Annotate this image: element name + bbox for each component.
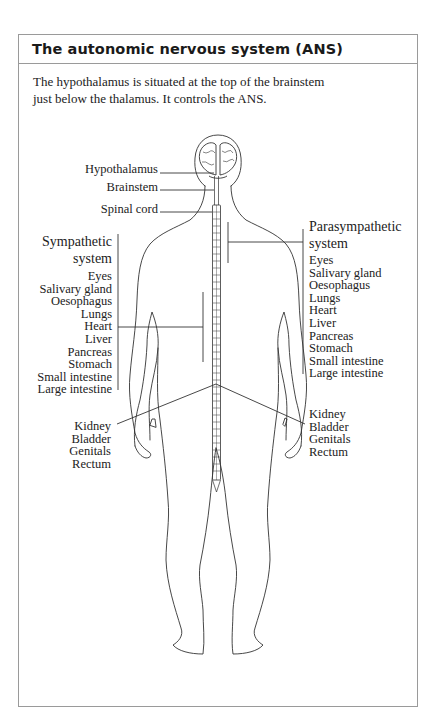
- sympathetic-lower-organ: Genitals: [69, 445, 111, 458]
- right-inner-arm: [278, 312, 302, 446]
- parasympathetic-lower-organ: Kidney: [309, 408, 351, 421]
- sympathetic-lower-organ: Kidney: [69, 420, 111, 433]
- sympathetic-title: Sympathetic system: [42, 233, 112, 267]
- label-brainstem: Brainstem: [107, 181, 158, 194]
- parasympathetic-title: Parasympathetic system: [309, 218, 402, 252]
- parasympathetic-title-line-2: system: [309, 235, 402, 252]
- parasympathetic-organ: Liver: [309, 317, 384, 330]
- sympathetic-organ: Oesophagus: [37, 295, 112, 308]
- left-inner-arm: [134, 312, 158, 446]
- spinal-column: [213, 176, 221, 492]
- lower-right-leader: [216, 384, 305, 424]
- sympathetic-organ: Stomach: [37, 358, 112, 371]
- parasympathetic-lower-organ: Rectum: [309, 446, 351, 459]
- left-torso-leg: [158, 348, 217, 654]
- parasympathetic-organ: Large intestine: [309, 367, 384, 380]
- parasympathetic-title-line-1: Parasympathetic: [309, 218, 402, 235]
- parasympathetic-organ: Eyes: [309, 254, 384, 267]
- sympathetic-organ: Liver: [37, 333, 112, 346]
- right-torso-leg: [216, 348, 279, 654]
- left-hand-mark: [150, 419, 156, 427]
- lower-left-leader: [117, 384, 216, 424]
- parasympathetic-organ: Stomach: [309, 342, 384, 355]
- parasympathetic-organ: Oesophagus: [309, 279, 384, 292]
- sympathetic-lower-organ-list: Kidney Bladder Genitals Rectum: [69, 420, 111, 470]
- sympathetic-title-line-2: system: [42, 250, 112, 267]
- sympathetic-title-line-1: Sympathetic: [42, 233, 112, 250]
- parasympathetic-lower-organ-list: Kidney Bladder Genitals Rectum: [309, 408, 351, 458]
- sympathetic-organ: Large intestine: [37, 383, 112, 396]
- sympathetic-organ-list: Eyes Salivary gland Oesophagus Lungs Hea…: [37, 270, 112, 396]
- body-outline-left: [129, 186, 205, 458]
- body-outline-right: [231, 186, 307, 458]
- parasympathetic-lower-organ: Genitals: [309, 433, 351, 446]
- parasympathetic-organ-list: Eyes Salivary gland Oesophagus Lungs Hea…: [309, 254, 384, 380]
- label-hypothalamus: Hypothalamus: [85, 163, 158, 176]
- label-spinal-cord: Spinal cord: [101, 203, 158, 216]
- sympathetic-lower-organ: Rectum: [69, 458, 111, 471]
- sympathetic-organ: Eyes: [37, 270, 112, 283]
